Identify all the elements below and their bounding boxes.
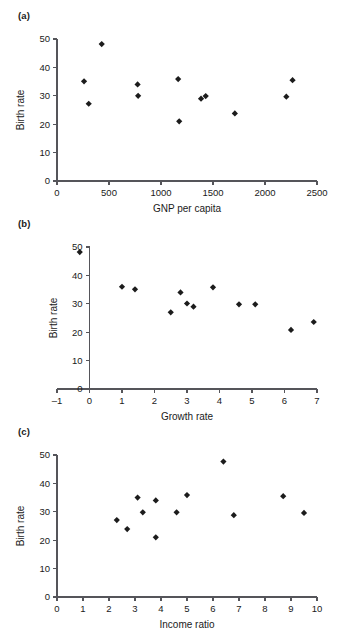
data-point-marker [176,118,182,124]
y-tick-label: 20 [39,119,50,130]
y-tick-label: 50 [39,449,50,460]
data-point-marker [135,81,141,87]
y-tick-label: 30 [39,506,50,517]
y-axis-title: Birth rate [15,89,26,130]
data-point-marker [174,509,180,515]
data-point-marker [86,101,92,107]
x-tick-label: 5 [184,603,189,614]
data-point-marker [135,93,141,99]
data-point-marker [190,304,196,310]
x-tick-label: 2000 [254,187,275,198]
data-point-marker [289,77,295,83]
x-tick-label: 3 [184,395,189,406]
y-tick-label: 10 [39,563,50,574]
data-point-marker [99,41,105,47]
x-tick-label: 4 [158,603,163,614]
data-point-marker [124,526,130,532]
data-point-marker [153,534,159,540]
x-tick-label: –1 [52,395,63,406]
x-tick-label: 7 [314,395,319,406]
data-point-marker [184,300,190,306]
y-tick-label: 10 [72,355,83,366]
x-tick-label: 2 [152,395,157,406]
data-point-marker [177,289,183,295]
panel-b-plot: 01020304050–101234567Growth rateBirth ra… [0,212,343,423]
y-axis-title: Birth rate [48,297,59,338]
y-tick-label: 0 [77,383,82,394]
x-tick-label: 4 [217,395,222,406]
data-point-marker [132,286,138,292]
data-point-marker [280,493,286,499]
data-point-marker [175,76,181,82]
x-tick-label: 7 [236,603,241,614]
data-point-marker [153,497,159,503]
data-point-marker [288,327,294,333]
y-tick-label: 0 [45,591,50,602]
y-tick-label: 10 [39,147,50,158]
panel-a-plot: 0102030405005001000150020002500GNP per c… [0,4,343,215]
data-point-marker [135,495,141,501]
x-tick-label: 3 [132,603,137,614]
y-tick-label: 20 [72,327,83,338]
figure-scatterplot-panels: (a) 0102030405005001000150020002500GNP p… [0,0,343,635]
data-point-marker [232,110,238,116]
data-point-marker [168,309,174,315]
x-tick-label: 0 [87,395,92,406]
x-tick-label: 1 [80,603,85,614]
data-point-marker [81,78,87,84]
data-point-marker [210,284,216,290]
data-point-marker [301,510,307,516]
x-tick-label: 9 [288,603,293,614]
x-tick-label: 6 [282,395,287,406]
y-tick-label: 50 [39,33,50,44]
y-tick-label: 40 [72,270,83,281]
y-tick-label: 30 [72,298,83,309]
data-point-marker [231,512,237,518]
y-tick-label: 40 [39,62,50,73]
x-axis-title: Income ratio [159,619,214,630]
data-point-marker [236,301,242,307]
y-tick-label: 0 [45,175,50,186]
x-tick-label: 1000 [150,187,171,198]
x-tick-label: 6 [210,603,215,614]
panel-c: (c) 01020304050012345678910Income ratioB… [0,420,343,631]
panel-b: (b) 01020304050–101234567Growth rateBirt… [0,212,343,423]
y-tick-label: 20 [39,535,50,546]
data-point-marker [283,94,289,100]
data-point-marker [184,492,190,498]
x-tick-label: 500 [101,187,117,198]
panel-c-plot: 01020304050012345678910Income ratioBirth… [0,420,343,631]
data-point-marker [140,509,146,515]
data-point-marker [220,458,226,464]
data-point-marker [252,301,258,307]
x-tick-label: 5 [249,395,254,406]
x-tick-label: 1 [119,395,124,406]
x-tick-label: 8 [262,603,267,614]
x-tick-label: 1500 [202,187,223,198]
y-axis-title: Birth rate [15,505,26,546]
panel-a: (a) 0102030405005001000150020002500GNP p… [0,4,343,215]
data-point-marker [114,517,120,523]
data-point-marker [311,319,317,325]
y-tick-label: 30 [39,90,50,101]
x-tick-label: 2500 [306,187,327,198]
x-tick-label: 2 [106,603,111,614]
y-tick-label: 40 [39,478,50,489]
x-tick-label: 10 [312,603,323,614]
data-point-marker [119,284,125,290]
x-tick-label: 0 [54,603,59,614]
x-tick-label: 0 [54,187,59,198]
